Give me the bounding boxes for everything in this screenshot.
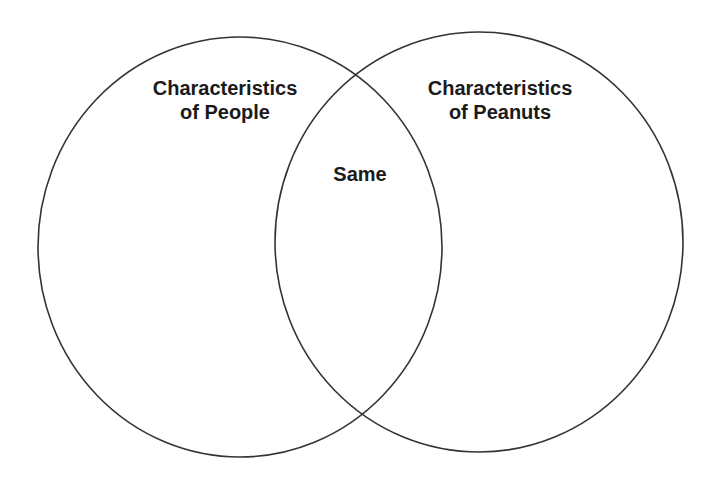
same-label-text: Same — [320, 162, 400, 186]
venn-diagram — [0, 0, 717, 489]
peanuts-label-line-1: Characteristics — [420, 76, 580, 100]
peanuts-label-line-2: of Peanuts — [420, 100, 580, 124]
same-label: Same — [320, 162, 400, 186]
people-label-line-1: Characteristics — [145, 76, 305, 100]
peanuts-label: Characteristics of Peanuts — [420, 76, 580, 124]
people-label: Characteristics of People — [145, 76, 305, 124]
people-label-line-2: of People — [145, 100, 305, 124]
